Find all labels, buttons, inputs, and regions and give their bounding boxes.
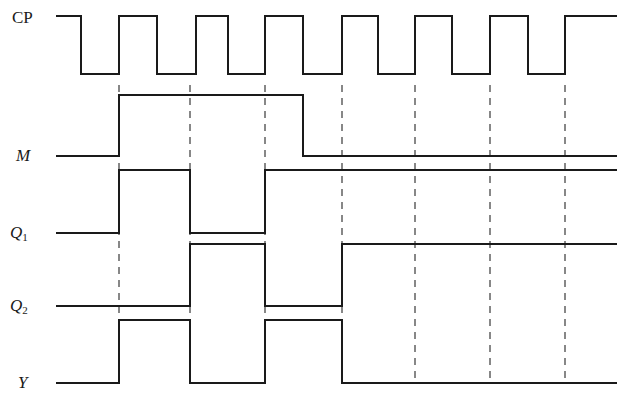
signal-waveforms [56, 16, 617, 383]
waveform-q2 [56, 244, 617, 306]
signal-label-m: M [16, 147, 30, 164]
signal-label-q1-base: Q [10, 223, 22, 242]
signal-label-q2-subscript: 2 [22, 304, 28, 316]
waveform-canvas [0, 0, 617, 413]
signal-label-cp: CP [12, 9, 33, 26]
signal-label-y: Y [18, 374, 27, 391]
waveform-m [56, 95, 617, 156]
signal-label-cp-text: CP [12, 8, 33, 27]
signal-label-q2-base: Q [10, 296, 22, 315]
signal-label-m-text: M [16, 146, 30, 165]
signal-label-q1-subscript: 1 [22, 231, 28, 243]
waveform-q1 [56, 170, 617, 233]
timing-diagram: CP M Q1 Q2 Y [0, 0, 617, 413]
waveform-y [56, 320, 617, 383]
signal-label-q1: Q1 [10, 224, 28, 241]
waveform-cp [56, 16, 617, 74]
signal-label-y-text: Y [18, 373, 27, 392]
signal-label-q2: Q2 [10, 297, 28, 314]
